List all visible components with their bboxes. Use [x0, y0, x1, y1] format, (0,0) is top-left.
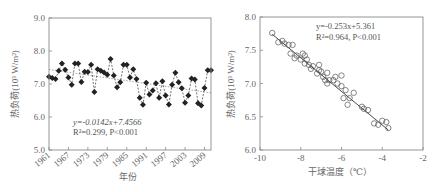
x-tick-label: 1985 — [110, 150, 131, 170]
data-point-circle — [316, 62, 321, 67]
data-point-diamond — [179, 85, 185, 91]
data-point-diamond — [91, 89, 97, 95]
figure: 5.06.07.08.09.0 196119671973197919851991… — [0, 0, 435, 192]
data-point-diamond — [114, 84, 120, 90]
data-point-diamond — [156, 95, 162, 101]
data-point-diamond — [117, 79, 123, 85]
x-tick-label: 2003 — [168, 150, 189, 170]
y-tick-label: 7.0 — [34, 79, 46, 89]
x-tick-label: 1991 — [129, 150, 149, 169]
data-point-circle — [345, 102, 350, 107]
left-equation: y=-0.0142x+7.4566 — [72, 117, 142, 127]
left-r2: R²=0.299, P<0.001 — [73, 127, 138, 137]
data-point-diamond — [133, 76, 139, 82]
data-point-diamond — [137, 95, 143, 101]
right-y-axis-title: 热负荷(10³ W/m²) — [225, 50, 236, 118]
data-point-diamond — [127, 74, 133, 80]
data-point-diamond — [75, 61, 81, 67]
y-tick-label: 6.5 — [245, 112, 257, 122]
y-tick-label: 7.0 — [245, 79, 257, 89]
y-tick-label: 8.0 — [245, 12, 257, 22]
right-equation: y=-0.253x+5.361 — [316, 21, 375, 31]
left-x-axis-title: 年份 — [119, 171, 137, 182]
x-tick-label: -8 — [297, 153, 305, 163]
x-tick-label: 1973 — [71, 150, 92, 170]
right-fit-line — [272, 34, 388, 130]
data-point-diamond — [143, 80, 149, 86]
y-tick-label: 7.5 — [245, 45, 257, 55]
data-point-diamond — [140, 102, 146, 108]
data-point-diamond — [166, 101, 172, 107]
data-point-circle — [335, 81, 340, 86]
data-point-circle — [351, 90, 356, 95]
left-trend-line — [49, 69, 211, 92]
data-point-diamond — [163, 93, 169, 99]
data-point-diamond — [111, 72, 117, 78]
data-point-diamond — [172, 70, 178, 76]
data-point-circle — [343, 87, 348, 92]
data-point-diamond — [130, 66, 136, 72]
right-chart-scatter: 6.06.57.07.58.0 -10-8-6-4-2 y=-0.253x+5.… — [225, 12, 427, 177]
data-point-circle — [325, 70, 330, 75]
data-point-circle — [341, 95, 346, 100]
data-point-diamond — [59, 61, 65, 67]
right-r2: R²=0.964, P<0.001 — [316, 32, 381, 42]
data-point-diamond — [65, 74, 71, 80]
x-tick-label: -6 — [338, 153, 346, 163]
data-point-diamond — [56, 68, 62, 74]
y-tick-label: 8.0 — [34, 46, 46, 56]
right-x-axis-ticks: -10-8-6-4-2 — [254, 147, 427, 163]
y-tick-label: 9.0 — [34, 13, 46, 23]
data-point-diamond — [169, 82, 175, 88]
series-line — [49, 59, 211, 106]
x-tick-label: -2 — [419, 153, 427, 163]
data-point-circle — [339, 73, 344, 78]
fit-line — [272, 34, 388, 130]
y-tick-label: 6.0 — [34, 112, 46, 122]
right-data-series — [270, 30, 392, 130]
left-y-axis-title: 热负荷(10³ W/m²) — [9, 50, 20, 118]
right-x-axis-title: 干球温度（℃） — [308, 166, 372, 177]
data-point-diamond — [124, 62, 130, 68]
data-point-diamond — [159, 78, 165, 84]
data-point-diamond — [153, 80, 159, 86]
data-point-diamond — [69, 82, 75, 88]
x-tick-label: 1997 — [149, 150, 170, 170]
x-tick-label: -10 — [254, 153, 266, 163]
data-point-diamond — [78, 79, 84, 85]
data-point-diamond — [176, 79, 182, 85]
x-tick-label: 2009 — [188, 150, 209, 170]
data-point-circle — [290, 42, 295, 47]
x-tick-label: -4 — [379, 153, 387, 163]
data-point-diamond — [185, 93, 191, 99]
x-tick-label: 1979 — [90, 150, 111, 170]
trend-line — [49, 69, 211, 92]
data-point-diamond — [202, 85, 208, 91]
data-point-diamond — [108, 56, 114, 62]
left-chart-timeseries: 5.06.07.08.09.0 196119671973197919851991… — [9, 13, 214, 182]
left-data-series — [46, 56, 214, 109]
data-point-diamond — [88, 62, 94, 68]
x-tick-label: 1967 — [52, 150, 73, 170]
data-point-diamond — [182, 100, 188, 106]
data-point-circle — [288, 51, 293, 56]
